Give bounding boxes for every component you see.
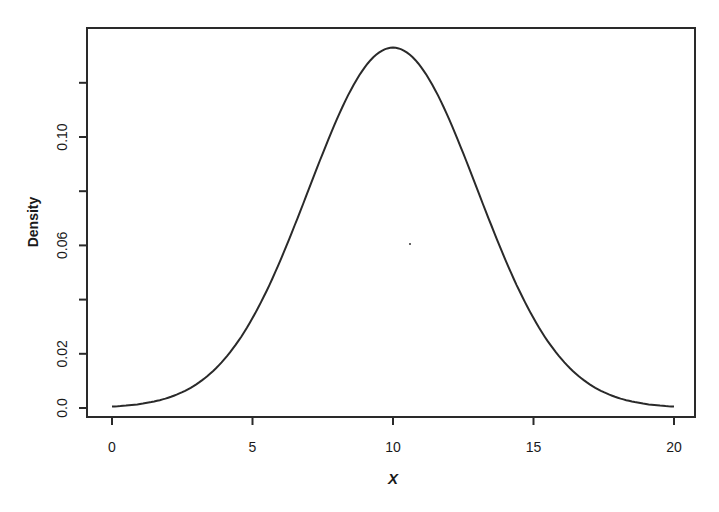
- x-tick-label: 10: [385, 439, 401, 455]
- speck: [409, 243, 411, 245]
- density-chart: 0.00.020.060.10 05101520 Density X: [0, 0, 719, 512]
- y-tick-label: 0.0: [54, 398, 70, 418]
- y-tick-label: 0.06: [54, 232, 70, 259]
- plot-frame: [87, 28, 695, 417]
- x-tick-label: 15: [526, 439, 542, 455]
- x-axis-title: X: [387, 470, 399, 487]
- y-axis: 0.00.020.060.10: [54, 83, 87, 418]
- x-tick-label: 5: [249, 439, 257, 455]
- y-tick-label: 0.10: [54, 123, 70, 150]
- y-tick-label: 0.02: [54, 340, 70, 367]
- density-curve: [112, 48, 674, 407]
- x-tick-label: 0: [108, 439, 116, 455]
- y-axis-title: Density: [25, 197, 41, 248]
- x-axis: 05101520: [108, 417, 682, 455]
- x-tick-label: 20: [666, 439, 682, 455]
